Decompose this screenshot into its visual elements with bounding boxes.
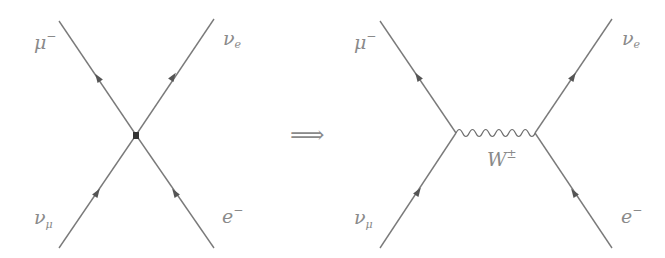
right-diagram-w-exchange: μ− νe νμ e− W± <box>354 19 642 248</box>
label-electron-minus: e− <box>222 203 243 227</box>
label-electron-neutrino: νe <box>223 27 242 51</box>
left-diagram-fermi-contact: μ− νe νμ e− <box>34 19 243 248</box>
arrow-icon <box>413 71 423 82</box>
label-muon-minus: μ− <box>34 29 56 53</box>
arrow-icon <box>168 71 178 82</box>
implies-arrow-icon: ⟹ <box>290 121 324 149</box>
electron-neutrino-line <box>136 19 214 135</box>
feynman-diagram-figure: μ− νe νμ e− ⟹ μ− νe νμ <box>0 0 665 258</box>
electron-line <box>535 133 612 248</box>
label-w-boson: W± <box>487 147 517 170</box>
label-electron-neutrino: νe <box>622 27 641 51</box>
label-muon-neutrino: νμ <box>34 206 53 231</box>
label-electron-minus: e− <box>621 203 642 227</box>
w-boson-propagator <box>456 130 535 137</box>
contact-vertex <box>133 132 139 139</box>
label-muon-neutrino: νμ <box>354 206 373 231</box>
label-muon-minus: μ− <box>354 29 376 53</box>
